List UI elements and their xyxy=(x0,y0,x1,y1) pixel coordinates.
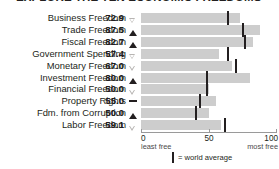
chart-row: Trade Freedom87.5 xyxy=(0,24,279,36)
x-axis-endpoint-caption: most free xyxy=(247,143,278,151)
world-average-tick xyxy=(224,118,226,132)
x-axis-endpoint-caption: least free xyxy=(141,143,171,151)
world-average-marker-icon xyxy=(172,152,174,163)
chart-row: Property Rights55.0 xyxy=(0,95,279,107)
chart-row: Business Freedom72.9 xyxy=(0,12,279,24)
legend-label: = world average xyxy=(178,153,232,162)
trend-down-icon xyxy=(127,60,138,72)
freedom-score-value: 57.4 xyxy=(101,48,124,60)
freedom-score-value: 80.0 xyxy=(101,72,124,84)
trend-down-icon xyxy=(127,83,138,95)
chart-row: Fiscal Freedom82.7 xyxy=(0,36,279,48)
x-axis-line xyxy=(141,132,277,133)
freedom-score-value: 59.1 xyxy=(101,119,124,131)
x-axis-tick-label: 50 xyxy=(204,134,213,143)
x-axis-tick xyxy=(141,129,142,132)
economic-freedoms-bar-chart: Business Freedom72.9Trade Freedom87.5Fis… xyxy=(0,0,279,169)
freedom-score-value: 82.7 xyxy=(101,36,124,48)
trend-down-icon xyxy=(127,119,138,131)
trend-up-icon xyxy=(127,24,138,36)
chart-row: Fdm. from Corruption50.0 xyxy=(0,107,279,119)
freedom-score-value: 50.0 xyxy=(101,83,124,95)
world-average-tick xyxy=(227,47,229,61)
trend-down-icon xyxy=(127,12,138,24)
chart-row: Labor Freedom59.1 xyxy=(0,119,279,131)
world-average-tick xyxy=(199,94,201,108)
score-bar xyxy=(141,13,240,23)
x-axis-tick xyxy=(276,129,277,132)
freedom-score-value: 87.5 xyxy=(101,24,124,36)
freedom-score-value: 50.0 xyxy=(101,107,124,119)
world-average-tick xyxy=(227,11,229,25)
trend-down-icon xyxy=(127,48,138,60)
world-average-tick xyxy=(206,82,208,96)
freedom-score-value: 72.9 xyxy=(101,12,124,24)
freedom-score-value: 55.0 xyxy=(101,95,124,107)
trend-up-icon xyxy=(127,36,138,48)
chart-row: Monetary Freedom67.0 xyxy=(0,60,279,72)
score-bar xyxy=(141,49,219,59)
world-average-tick xyxy=(195,106,197,120)
score-bar xyxy=(141,37,253,47)
world-average-tick xyxy=(244,35,246,49)
trend-up-icon xyxy=(127,107,138,119)
trend-up-icon xyxy=(127,72,138,84)
score-bar xyxy=(141,73,250,83)
chart-row: Investment Freedom80.0 xyxy=(0,72,279,84)
trend-flat-icon xyxy=(127,95,138,107)
score-bar xyxy=(141,96,216,106)
chart-row: Financial Freedom50.0 xyxy=(0,83,279,95)
freedom-score-value: 67.0 xyxy=(101,60,124,72)
score-bar xyxy=(141,84,209,94)
world-average-tick xyxy=(235,59,237,73)
score-bar xyxy=(141,61,232,71)
score-bar xyxy=(141,108,209,118)
x-axis-tick xyxy=(209,129,210,132)
